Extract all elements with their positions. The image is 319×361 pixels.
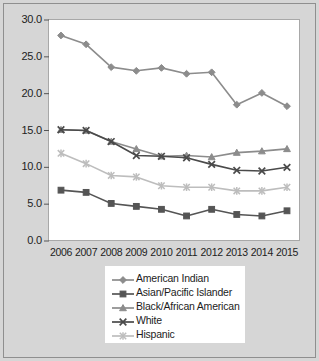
chart-canvas: 0.05.010.015.020.025.030.0 2006200720082… (0, 0, 319, 265)
x-marker-icon (110, 314, 136, 326)
data-point-marker (258, 90, 265, 97)
legend-item-label: White (136, 314, 162, 326)
chart-screenshot: 0.05.010.015.020.025.030.0 2006200720082… (0, 0, 319, 361)
x-axis-tick-label: 2015 (272, 246, 302, 258)
legend-item-label: Asian/Pacific Islander (136, 286, 232, 298)
chart-legend: American IndianAsian/Pacific IslanderBla… (105, 266, 245, 343)
data-point-marker (209, 206, 215, 212)
triangle-marker-icon (110, 300, 136, 312)
data-point-marker (234, 212, 240, 218)
legend-item[interactable]: Black/African American (110, 299, 245, 313)
data-point-marker (120, 277, 127, 284)
square-marker-icon (110, 286, 136, 298)
data-point-marker (159, 206, 165, 212)
y-axis-tick-label: 25.0 (2, 50, 42, 62)
data-point-marker (58, 32, 65, 39)
data-point-marker (184, 213, 190, 219)
legend-item-label: American Indian (136, 272, 209, 284)
y-axis-tick-label: 15.0 (2, 124, 42, 136)
legend-item[interactable]: American Indian (110, 271, 245, 285)
legend-item[interactable]: Asian/Pacific Islander (110, 285, 245, 299)
series-american-indian (58, 32, 291, 110)
data-point-marker (133, 203, 139, 209)
legend-item[interactable]: Hispanic (110, 327, 245, 341)
data-point-marker (58, 150, 64, 158)
legend-item[interactable]: White (110, 313, 245, 327)
data-point-marker (58, 187, 64, 193)
y-axis-tick-label: 10.0 (2, 160, 42, 172)
data-point-marker (183, 70, 190, 77)
data-point-marker (259, 213, 265, 219)
y-axis-tick-label: 20.0 (2, 87, 42, 99)
data-point-marker (83, 189, 89, 195)
series-asian-pacific-islander (58, 187, 290, 219)
series-black-african-american (58, 126, 291, 159)
data-point-marker (120, 291, 126, 297)
y-axis-tick-label: 5.0 (2, 197, 42, 209)
y-axis-tick-label: 30.0 (2, 13, 42, 25)
data-point-marker (83, 160, 89, 168)
data-point-marker (158, 64, 165, 71)
data-point-marker (133, 67, 140, 74)
data-point-marker (284, 103, 291, 110)
data-point-marker (284, 208, 290, 214)
line-chart-svg (0, 0, 319, 265)
legend-item-label: Hispanic (136, 328, 175, 340)
legend-item-label: Black/African American (136, 300, 240, 312)
data-point-marker (108, 201, 114, 207)
asterisk-marker-icon (110, 328, 136, 340)
diamond-marker-icon (110, 272, 136, 284)
y-axis-tick-label: 0.0 (2, 234, 42, 246)
